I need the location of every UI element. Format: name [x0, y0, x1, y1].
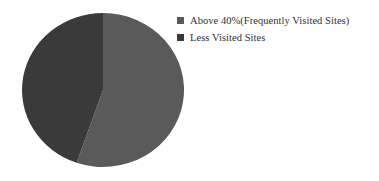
pie-plot-area [0, 0, 200, 181]
legend-item-less-visited[interactable]: Less Visited Sites [177, 31, 377, 45]
square-marker-icon [177, 17, 184, 24]
legend-item-label: Above 40%(Frequently Visited Sites) [190, 14, 349, 27]
legend-item-above-40[interactable]: Above 40%(Frequently Visited Sites) [177, 14, 377, 28]
pie-slices [22, 13, 184, 167]
square-marker-icon [177, 34, 184, 41]
pie-svg [0, 0, 200, 181]
pie-chart-figure: Above 40%(Frequently Visited Sites) Less… [0, 0, 379, 181]
legend-item-label: Less Visited Sites [190, 31, 265, 44]
legend: Above 40%(Frequently Visited Sites) Less… [177, 14, 377, 48]
